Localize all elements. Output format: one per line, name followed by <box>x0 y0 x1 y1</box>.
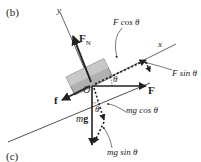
friction-label: f <box>54 94 58 106</box>
mg-sin-label: mg sin θ <box>107 147 138 157</box>
f-cos-leader <box>115 28 122 58</box>
f-sin-label: F sin θ <box>171 68 198 78</box>
theta-label-bottom: θ <box>95 104 100 114</box>
free-body-diagram: (b) (c) y x FN f O F θ θ mg F cos θ F si… <box>0 0 201 162</box>
mg-sin-leader <box>103 127 112 148</box>
angle-arc-top <box>110 77 112 86</box>
panel-label-c: (c) <box>6 150 19 162</box>
origin-label: O <box>83 84 90 95</box>
f-cos-label: F cos θ <box>112 17 140 27</box>
normal-force-label: FN <box>79 32 91 47</box>
mg-sin-component <box>94 122 104 143</box>
theta-label-top: θ <box>113 74 118 84</box>
mg-cos-label: mg cos θ <box>126 105 158 115</box>
mg-cos-leader <box>107 104 126 112</box>
applied-force-label: F <box>148 84 155 96</box>
weight-label: mg <box>76 113 88 124</box>
x-axis-label: x <box>157 39 162 49</box>
panel-label-b: (b) <box>6 6 19 19</box>
y-axis-label: y <box>56 5 61 15</box>
angle-arc-bottom <box>92 102 98 103</box>
